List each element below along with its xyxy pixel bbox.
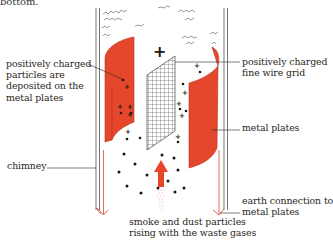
smoke-scribbles	[102, 6, 218, 44]
svg-text:+: +	[127, 111, 133, 119]
svg-text:+: +	[125, 128, 131, 136]
svg-text:+: +	[182, 89, 188, 97]
grid-charge-plus-icon: +	[153, 42, 166, 61]
earth-arrow-icons	[96, 208, 224, 215]
rising-gas-arrow-icon	[154, 160, 168, 212]
svg-text:+: +	[176, 100, 182, 108]
svg-text:+: +	[124, 83, 130, 91]
wire-grid	[147, 56, 175, 150]
svg-text:+: +	[179, 112, 185, 120]
svg-text:+: +	[127, 103, 133, 111]
svg-text:+: +	[117, 103, 123, 111]
svg-text:+: +	[194, 62, 200, 70]
dust-particles	[118, 153, 186, 195]
svg-text:+: +	[175, 133, 181, 141]
